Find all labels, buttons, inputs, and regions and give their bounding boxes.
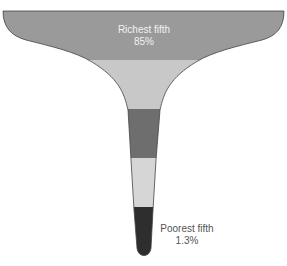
band-third	[0, 109, 287, 158]
band-second	[0, 60, 287, 109]
champagne-glass-chart: Richest fifth 85% Poorest fifth 1.3%	[0, 0, 287, 266]
band-fourth	[0, 158, 287, 207]
richest-label: Richest fifth	[118, 24, 170, 35]
poorest-value: 1.3%	[176, 235, 199, 246]
poorest-label: Poorest fifth	[160, 223, 213, 234]
richest-value: 85%	[134, 36, 154, 47]
band-poorest	[0, 207, 287, 266]
